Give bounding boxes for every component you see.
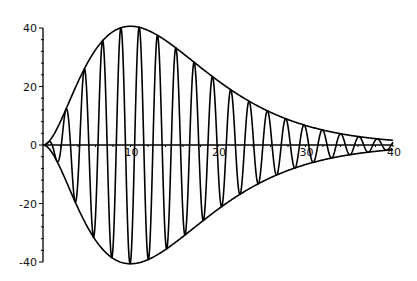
y-tick-label: 40 [23,22,37,35]
y-tick-label: -40 [19,256,37,269]
y-tick-label: -20 [19,198,37,211]
y-tick-label: 0 [30,139,37,152]
chart: -40-200204010203040 [0,0,417,281]
x-tick-label: 20 [212,146,226,159]
y-tick-label: 20 [23,81,37,94]
upper-envelope-line [43,26,393,145]
x-tick-label: 10 [125,146,139,159]
axes: -40-200204010203040 [19,22,401,269]
